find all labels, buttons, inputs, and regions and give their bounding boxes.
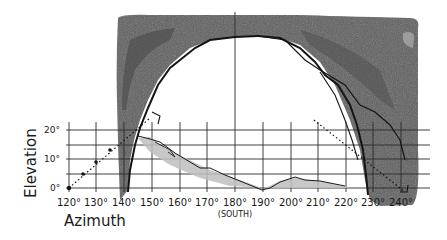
x-tick: 190°	[251, 197, 275, 208]
x-tick: 160°	[168, 197, 192, 208]
y-tick-20: 20°	[44, 125, 60, 135]
x-tick: 140°	[112, 197, 136, 208]
x-tick: 230°	[361, 197, 385, 208]
x-tick: 130°	[84, 197, 108, 208]
south-label: (SOUTH)	[218, 210, 252, 219]
y-tick-0: 0°	[50, 183, 60, 193]
x-tick: 200°	[279, 197, 303, 208]
x-tick: 240°	[389, 197, 413, 208]
x-tick: 210°	[306, 197, 330, 208]
x-tick: 180°	[223, 197, 247, 208]
x-tick: 170°	[195, 197, 219, 208]
y-tick-10: 10°	[44, 154, 60, 164]
x-tick: 120°	[57, 197, 81, 208]
sun-path-diagram: 20° 10° 0° Elevation 120° 130° 140° 150°…	[0, 0, 447, 240]
y-axis-title: Elevation	[22, 128, 40, 198]
x-tick: 220°	[334, 197, 358, 208]
x-tick: 150°	[140, 197, 164, 208]
sun-trajectory-morning	[67, 112, 160, 190]
y-axis-ticks: 20° 10° 0°	[44, 125, 60, 193]
x-axis-title: Azimuth	[64, 212, 126, 230]
